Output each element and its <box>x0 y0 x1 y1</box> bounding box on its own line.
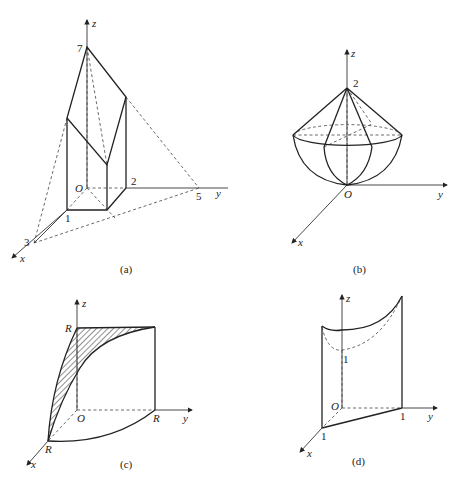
top-curve <box>322 296 402 331</box>
x-axis <box>12 210 67 258</box>
tick-R-z: R <box>64 322 72 334</box>
x-label: x <box>30 458 36 470</box>
tick-3: 3 <box>24 236 30 248</box>
tick-1: 1 <box>65 212 71 224</box>
tick-R-y: R <box>152 412 160 424</box>
x-axis <box>292 185 347 243</box>
origin-label: O <box>75 182 83 194</box>
hidden-edge <box>126 97 199 188</box>
hidden-edge <box>87 47 107 165</box>
x-axis-segment <box>34 210 67 243</box>
figure-a: z 7 O 2 5 y 1 3 x (a) <box>12 17 228 276</box>
ellipse-front <box>293 135 402 145</box>
hidden-edge <box>34 188 199 243</box>
x-label: x <box>19 252 25 264</box>
tick-2: 2 <box>131 175 137 187</box>
hidden-curve <box>322 296 402 350</box>
tick-1-x: 1 <box>321 430 327 442</box>
origin-label: O <box>344 188 352 200</box>
paraboloid-curve <box>324 147 347 185</box>
caption-c: (c) <box>120 458 133 471</box>
z-label: z <box>91 17 97 29</box>
y-label: y <box>437 188 443 200</box>
z-label: z <box>81 297 87 309</box>
cone-edge <box>347 88 402 135</box>
figure-canvas: z 7 O 2 5 y 1 3 x (a) z 2 O y x (b) <box>0 0 452 484</box>
caption-b: (b) <box>353 263 366 276</box>
hidden-ellipse-back <box>293 125 402 135</box>
solid-edge <box>67 97 126 165</box>
origin-label: O <box>77 412 85 424</box>
cone-edge <box>293 88 347 135</box>
x-label: x <box>306 447 312 459</box>
z-label: z <box>345 292 351 304</box>
tick-2: 2 <box>353 77 359 89</box>
tick-R-x: R <box>44 443 52 455</box>
y-label: y <box>215 187 221 199</box>
origin-label: O <box>331 400 339 412</box>
hidden-edge <box>87 188 115 218</box>
figure-c: z R O R y R x (c) <box>27 297 192 471</box>
tick-5: 5 <box>196 190 202 202</box>
x-label: x <box>297 236 303 248</box>
cone-edge <box>347 88 372 147</box>
y-label: y <box>182 412 188 424</box>
z-label: z <box>350 47 356 59</box>
tick-7: 7 <box>77 42 83 54</box>
base-arc <box>48 410 155 441</box>
y-label: y <box>427 410 433 422</box>
figure-b: z 2 O y x (b) <box>292 47 447 276</box>
cone-edge <box>324 88 347 147</box>
caption-a: (a) <box>120 263 133 276</box>
figure-d: z 1 O 1 y 1 x (d) <box>300 292 437 468</box>
tick-1-y: 1 <box>400 410 406 422</box>
tick-1-z: 1 <box>343 353 349 365</box>
caption-d: (d) <box>352 455 365 468</box>
